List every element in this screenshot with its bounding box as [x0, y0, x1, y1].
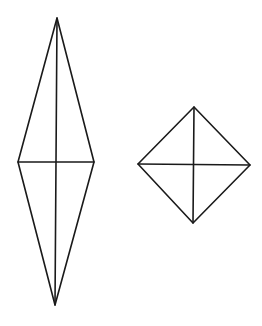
square-rhombus-horizontal-diagonal — [138, 164, 250, 165]
elongated-rhombus — [18, 18, 94, 305]
diagram-canvas — [0, 0, 262, 326]
square-rhombus — [138, 107, 250, 223]
